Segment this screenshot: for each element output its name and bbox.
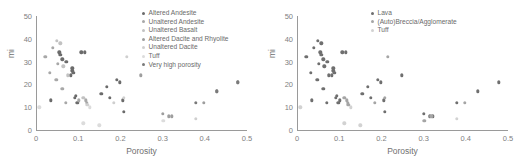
data-point bbox=[463, 101, 466, 104]
data-point bbox=[323, 64, 326, 67]
data-point bbox=[422, 112, 425, 115]
x-tick-label: 0.5 bbox=[503, 134, 513, 143]
data-point bbox=[55, 78, 58, 81]
y-axis-line-right bbox=[297, 16, 298, 130]
legend-label: (Auto)Breccia/Agglomerate bbox=[378, 18, 457, 27]
y-axis-line-left bbox=[36, 16, 37, 130]
data-point bbox=[312, 46, 315, 49]
y-tick-label: 30 bbox=[24, 57, 32, 66]
x-tick-label: 0.5 bbox=[242, 134, 252, 143]
data-point bbox=[309, 71, 312, 74]
data-point bbox=[162, 119, 165, 122]
legend-item: Altered Andesite bbox=[142, 9, 228, 18]
legend-item: Altered Dacite and Rhyolite bbox=[142, 35, 228, 44]
legend-marker-icon bbox=[371, 12, 374, 15]
data-point bbox=[49, 99, 52, 102]
data-point bbox=[321, 87, 324, 90]
data-point bbox=[400, 74, 403, 77]
data-point bbox=[60, 58, 63, 61]
data-point bbox=[320, 42, 323, 45]
data-point bbox=[88, 105, 91, 108]
x-tick-label: 0.3 bbox=[418, 134, 428, 143]
legend-marker-icon bbox=[142, 12, 145, 15]
data-point bbox=[82, 121, 85, 124]
x-axis-line-left bbox=[36, 130, 247, 131]
data-point bbox=[320, 53, 323, 56]
legend-label: Tuff bbox=[149, 52, 160, 61]
legend-item: Unaltered Andesite bbox=[142, 18, 228, 27]
data-point bbox=[71, 71, 74, 74]
legend-item: (Auto)Breccia/Agglomerate bbox=[371, 18, 457, 27]
y-tick-label: 20 bbox=[285, 80, 293, 89]
data-point bbox=[112, 101, 115, 104]
data-point bbox=[83, 51, 86, 54]
legend-marker-icon bbox=[142, 38, 145, 41]
data-point bbox=[321, 58, 324, 61]
data-point bbox=[310, 99, 313, 102]
data-point bbox=[62, 64, 65, 67]
x-tick-label: 0.2 bbox=[115, 134, 125, 143]
chart-panel-left: mi Porosity 01020304050 00.10.20.30.40.5… bbox=[0, 0, 261, 166]
legend-item: Unaltered Basalt bbox=[142, 26, 228, 35]
y-tick-label: 10 bbox=[285, 103, 293, 112]
data-point bbox=[59, 53, 62, 56]
data-point bbox=[383, 110, 386, 113]
data-point bbox=[455, 117, 458, 120]
x-tick-label: 0.2 bbox=[376, 134, 386, 143]
data-point bbox=[59, 42, 62, 45]
x-tick-label: 0 bbox=[34, 134, 38, 143]
y-axis-label-right: mi bbox=[267, 49, 277, 58]
data-point bbox=[60, 87, 63, 90]
legend-label: Unaltered Andesite bbox=[149, 18, 205, 27]
data-point bbox=[316, 78, 319, 81]
data-point bbox=[361, 92, 364, 95]
data-point bbox=[383, 96, 386, 99]
data-point bbox=[65, 60, 68, 63]
data-point bbox=[379, 80, 382, 83]
x-tick-label: 0.1 bbox=[334, 134, 344, 143]
x-tick-label: 0 bbox=[295, 134, 299, 143]
data-point bbox=[122, 110, 125, 113]
legend-label: Unaltered Dacite bbox=[149, 43, 198, 52]
data-point bbox=[349, 105, 352, 108]
data-point bbox=[215, 90, 218, 93]
x-tick-label: 0.1 bbox=[73, 134, 83, 143]
legend-marker-icon bbox=[371, 20, 374, 23]
data-point bbox=[139, 74, 142, 77]
data-point bbox=[105, 85, 108, 88]
data-point bbox=[386, 55, 389, 58]
data-point bbox=[77, 99, 80, 102]
legend-item: Unaltered Dacite bbox=[142, 43, 228, 52]
legend-label: Tuff bbox=[378, 26, 389, 35]
data-point bbox=[100, 92, 103, 95]
legend-label: Lava bbox=[378, 9, 392, 18]
y-tick-label: 0 bbox=[28, 126, 32, 135]
legend-marker-icon bbox=[142, 46, 145, 49]
legend-marker-icon bbox=[371, 29, 374, 32]
data-point bbox=[335, 94, 338, 97]
data-point bbox=[170, 115, 173, 118]
legend-left: Altered AndesiteUnaltered AndesiteUnalte… bbox=[142, 9, 228, 69]
data-point bbox=[118, 80, 121, 83]
data-point bbox=[122, 96, 125, 99]
legend-label: Unaltered Basalt bbox=[149, 26, 198, 35]
legend-item: Tuff bbox=[371, 26, 457, 35]
data-point bbox=[317, 62, 320, 65]
legend-item: Lava bbox=[371, 9, 457, 18]
data-point bbox=[497, 80, 500, 83]
data-point bbox=[51, 46, 54, 49]
legend-label: Very high porosity bbox=[149, 61, 201, 70]
y-tick-label: 0 bbox=[289, 126, 293, 135]
scatter-plot-figure: mi Porosity 01020304050 00.10.20.30.40.5… bbox=[0, 0, 521, 166]
y-tick-label: 50 bbox=[285, 12, 293, 21]
data-point bbox=[344, 51, 347, 54]
data-point bbox=[98, 124, 101, 127]
legend-marker-icon bbox=[142, 20, 145, 23]
chart-panel-right: mi Porosity 01020304050 00.10.20.30.40.5… bbox=[261, 0, 521, 166]
data-point bbox=[64, 101, 67, 104]
y-tick-label: 30 bbox=[285, 57, 293, 66]
x-axis-line-right bbox=[297, 130, 508, 131]
x-axis-label-right: Porosity bbox=[297, 146, 508, 156]
data-point bbox=[56, 62, 59, 65]
data-point bbox=[338, 99, 341, 102]
